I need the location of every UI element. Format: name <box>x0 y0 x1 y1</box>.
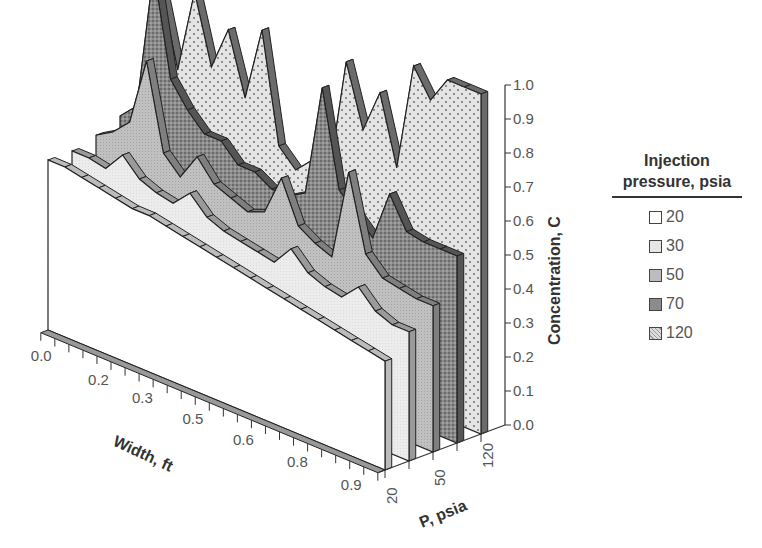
ribbons <box>48 0 488 470</box>
legend-swatch-50 <box>649 269 662 282</box>
z-tick-label: 0.6 <box>513 212 534 229</box>
legend-item-70: 70 <box>612 294 742 314</box>
y-axis-label: P, psia <box>417 496 469 530</box>
legend-title-line2: pressure, psia <box>612 171 742 192</box>
z-tick-label: 0.3 <box>513 314 534 331</box>
legend-title-line1: Injection <box>612 150 742 171</box>
legend-swatch-30 <box>649 240 662 253</box>
z-tick-label: 0.0 <box>513 416 534 433</box>
x-tick-label: 0.0 <box>31 347 52 364</box>
y-tick-label: 120 <box>479 443 496 468</box>
legend-label: 50 <box>666 266 684 284</box>
legend-item-30: 30 <box>612 236 742 256</box>
x-tick-label: 0.6 <box>233 431 254 448</box>
legend-label: 70 <box>666 295 684 313</box>
z-tick-label: 0.4 <box>513 280 534 297</box>
z-tick-label: 0.5 <box>513 246 534 263</box>
z-tick-label: 0.7 <box>513 178 534 195</box>
legend-label: 30 <box>666 237 684 255</box>
legend-item-20: 20 <box>612 207 742 227</box>
z-tick-label: 0.8 <box>513 144 534 161</box>
legend-label: 120 <box>666 324 693 342</box>
x-axis-label: Width, ft <box>111 432 177 475</box>
z-tick-label: 0.2 <box>513 348 534 365</box>
x-tick-label: 0.2 <box>88 371 109 388</box>
z-tick-label: 0.1 <box>513 382 534 399</box>
legend: Injection pressure, psia 20 30 50 70 120 <box>612 150 742 343</box>
z-tick-label: 0.9 <box>513 110 534 127</box>
legend-item-50: 50 <box>612 265 742 285</box>
x-tick-label: 0.3 <box>132 389 153 406</box>
legend-swatch-120 <box>649 327 662 340</box>
y-tick-label: 50 <box>431 469 448 486</box>
z-axis-label: Concentration, C <box>546 216 563 345</box>
legend-swatch-20 <box>649 211 662 224</box>
legend-title: Injection pressure, psia <box>612 150 742 198</box>
x-tick-label: 0.9 <box>341 476 362 493</box>
z-tick-label: 1.0 <box>513 76 534 93</box>
legend-item-120: 120 <box>612 323 742 343</box>
legend-swatch-70 <box>649 298 662 311</box>
x-tick-label: 0.5 <box>182 410 203 427</box>
x-tick-label: 0.8 <box>287 453 308 470</box>
legend-label: 20 <box>666 208 684 226</box>
y-tick-label: 20 <box>383 487 400 504</box>
